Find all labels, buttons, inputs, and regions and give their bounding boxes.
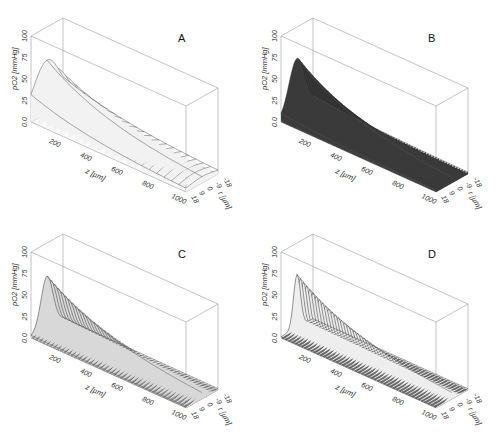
- z-tick-label: 200: [47, 137, 62, 149]
- z-tick-label: 400: [329, 367, 343, 378]
- box-edge: [281, 234, 313, 252]
- pO2-tick-label: 0.0: [21, 117, 28, 127]
- panel-letter: D: [428, 248, 436, 260]
- z-tick-label: 400: [79, 367, 93, 378]
- z-tick-label: 600: [110, 381, 124, 392]
- r-tick-label: -18: [222, 392, 233, 404]
- pO2-tick-label: 75: [21, 270, 28, 278]
- r-tick-label: 9: [448, 190, 456, 197]
- pO2-tick-label: 50: [271, 291, 278, 299]
- box-edge: [31, 18, 63, 36]
- z-axis-label: z [µm]: [333, 382, 357, 399]
- pO2-tick-label: 25: [21, 313, 28, 322]
- pO2-tick-label: 100: [271, 246, 278, 258]
- z-tick-label: 1000: [420, 192, 437, 205]
- surface: [31, 60, 218, 192]
- pO2-tick-label: 0.0: [21, 333, 28, 343]
- z-tick-label: 800: [391, 395, 405, 406]
- r-tick-label: 0: [456, 401, 464, 408]
- r-tick-label: 9: [198, 190, 206, 197]
- z-tick-label: 400: [329, 151, 343, 162]
- box-edge: [31, 234, 63, 252]
- box-edge: [63, 18, 218, 88]
- r-tick-label: 0: [206, 401, 214, 408]
- box-edge: [436, 304, 468, 322]
- box-edge: [436, 88, 468, 106]
- r-tick-label: 0: [206, 185, 214, 192]
- pO2-tick-label: 25: [21, 97, 28, 106]
- pO2-tick-label: 25: [271, 313, 278, 322]
- panel-c: 0.0255075100pO2 [mmHg]2004006008001000z …: [10, 234, 234, 428]
- z-tick-label: 600: [360, 381, 374, 392]
- box-edge: [186, 304, 218, 322]
- z-tick-label: 200: [297, 353, 312, 365]
- r-tick-label: -18: [472, 392, 483, 404]
- pO2-axis-label: pO2 [mmHg]: [260, 47, 269, 91]
- pO2-axis-ticks: 0.0255075100: [271, 246, 278, 343]
- pO2-tick-label: 50: [21, 75, 28, 83]
- panel-letter: C: [178, 248, 186, 260]
- box-edge: [63, 234, 218, 304]
- z-tick-label: 200: [47, 353, 62, 365]
- r-tick-label: -9: [464, 397, 473, 406]
- panel-a: 0.0255075100pO2 [mmHg]2004006008001000z …: [10, 18, 234, 212]
- pO2-axis-label: pO2 [mmHg]: [260, 263, 269, 307]
- panel-letter: A: [178, 32, 186, 44]
- box-edge: [313, 234, 468, 304]
- z-tick-label: 400: [79, 151, 93, 162]
- pO2-axis-label: pO2 [mmHg]: [10, 263, 19, 307]
- z-tick-label: 600: [110, 165, 124, 176]
- r-axis-label: r [µm]: [466, 190, 484, 212]
- z-tick-label: 800: [391, 179, 405, 190]
- r-tick-label: -9: [464, 181, 473, 190]
- z-tick-label: 1000: [170, 192, 187, 205]
- r-tick-label: -9: [214, 397, 223, 406]
- pO2-tick-label: 100: [21, 246, 28, 258]
- r-axis-label: r [µm]: [216, 406, 234, 428]
- pO2-tick-label: 75: [271, 270, 278, 278]
- r-tick-label: 18: [190, 410, 200, 420]
- surface: [31, 276, 218, 408]
- pO2-axis-ticks: 0.0255075100: [271, 30, 278, 127]
- r-axis-label: r [µm]: [466, 406, 484, 428]
- r-tick-label: -18: [472, 176, 483, 188]
- box-edge: [281, 18, 313, 36]
- pO2-axis-ticks: 0.0255075100: [21, 30, 28, 127]
- panel-letter: B: [428, 32, 435, 44]
- r-tick-label: 18: [440, 194, 450, 204]
- z-axis-label: z [µm]: [333, 166, 357, 183]
- pO2-tick-label: 25: [271, 97, 278, 106]
- z-tick-label: 1000: [170, 408, 187, 421]
- r-tick-label: -9: [214, 181, 223, 190]
- pO2-tick-label: 0.0: [271, 117, 278, 127]
- box-edge: [313, 18, 468, 88]
- z-tick-label: 800: [141, 395, 155, 406]
- figure: 0.0255075100pO2 [mmHg]2004006008001000z …: [0, 0, 500, 432]
- r-tick-label: 18: [440, 410, 450, 420]
- pO2-tick-label: 0.0: [271, 333, 278, 343]
- pO2-tick-label: 50: [21, 291, 28, 299]
- pO2-tick-label: 50: [271, 75, 278, 83]
- z-tick-label: 1000: [420, 408, 437, 421]
- r-tick-label: 9: [448, 406, 456, 413]
- pO2-tick-label: 75: [271, 54, 278, 62]
- pO2-tick-label: 100: [21, 30, 28, 42]
- r-tick-label: 9: [198, 406, 206, 413]
- r-tick-label: 0: [456, 185, 464, 192]
- z-tick-label: 600: [360, 165, 374, 176]
- z-axis-label: z [µm]: [83, 382, 107, 399]
- z-axis-label: z [µm]: [83, 166, 107, 183]
- panel-d: 0.0255075100pO2 [mmHg]2004006008001000z …: [260, 234, 484, 428]
- pO2-axis-label: pO2 [mmHg]: [10, 47, 19, 91]
- z-tick-label: 800: [141, 179, 155, 190]
- pO2-axis-ticks: 0.0255075100: [21, 246, 28, 343]
- z-tick-label: 200: [297, 137, 312, 149]
- box-edge: [186, 88, 218, 106]
- r-tick-label: -18: [222, 176, 233, 188]
- panel-b: 0.0255075100pO2 [mmHg]2004006008001000z …: [260, 18, 484, 212]
- pO2-tick-label: 100: [271, 30, 278, 42]
- pO2-tick-label: 75: [21, 54, 28, 62]
- r-axis-label: r [µm]: [216, 190, 234, 212]
- r-tick-label: 18: [190, 194, 200, 204]
